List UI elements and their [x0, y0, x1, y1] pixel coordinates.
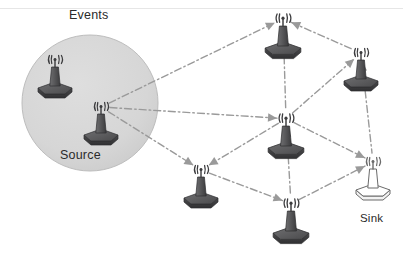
link-arrowhead: [268, 113, 277, 121]
link-line: [294, 123, 365, 158]
events-label: Events: [69, 8, 108, 22]
network-link: [299, 166, 365, 200]
link-line: [209, 123, 279, 165]
sensor-node-bottom-left: [184, 166, 218, 209]
link-arrowhead: [273, 193, 283, 201]
diagram-canvas: Events Source Sink: [0, 0, 403, 272]
network-link: [209, 173, 282, 201]
network-link: [209, 123, 279, 165]
sensor-node-upper-right: [344, 49, 378, 92]
network-link: [291, 22, 353, 49]
sink-node: [356, 158, 390, 201]
link-arrowhead: [184, 157, 194, 165]
link-arrowhead: [209, 157, 219, 165]
network-topology-svg: [0, 0, 403, 272]
sensor-node-bottom: [273, 199, 309, 244]
sensor-node-center: [268, 114, 304, 159]
link-line: [291, 22, 353, 49]
link-line: [209, 173, 282, 200]
sink-label: Sink: [360, 212, 383, 224]
link-arrowhead: [291, 22, 301, 30]
sensor-node-top: [265, 14, 301, 59]
source-label: Source: [60, 148, 101, 162]
link-line: [299, 166, 365, 200]
network-link: [294, 123, 365, 158]
